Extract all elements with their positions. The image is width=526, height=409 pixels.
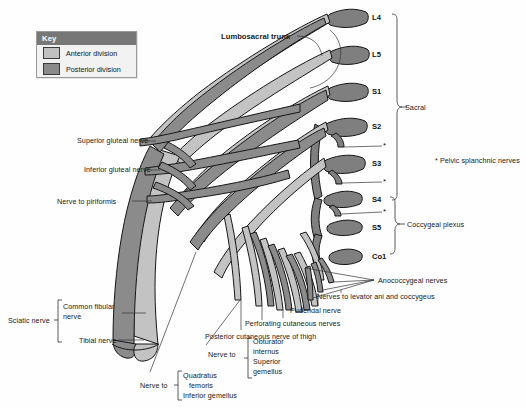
root-label-s1: S1	[372, 87, 381, 96]
root-label-l4: L4	[372, 13, 381, 22]
sciatic-nerve-trunk	[112, 340, 159, 361]
spinal-root-L4	[327, 9, 368, 27]
bracket-label-sciatic-nerve: Sciatic nerve	[8, 316, 50, 325]
bracket-coccygeal-plexus	[390, 197, 405, 254]
spinal-root-S3	[323, 155, 365, 184]
root-label-l5: L5	[372, 50, 381, 59]
asterisk-marker-s3: *	[383, 178, 386, 186]
sympathetic-chain-lower	[311, 198, 322, 240]
spinal-root-S4	[324, 191, 362, 216]
label-common-fibular-nerve: Common fibular nerve	[63, 302, 125, 321]
root-label-s2: S2	[372, 122, 381, 131]
label-inferior-gemellus: Inferior gemellus	[183, 391, 237, 400]
label-femoris: femoris	[189, 381, 213, 390]
bracket-label-sacral: Sacral	[405, 103, 426, 112]
root-label-s4: S4	[372, 195, 381, 204]
posterior-division-label: Posterior division	[66, 65, 121, 74]
posterior-division-swatch	[43, 63, 60, 75]
spinal-root-S1	[327, 83, 368, 101]
label-nerve-to-prefix-quadratus: Nerve to	[140, 381, 168, 390]
label-perforating-cutaneous-nerves: Perforating cutaneous nerves	[245, 319, 340, 328]
label-tibial-nerve: Tibial nerve	[79, 336, 117, 345]
spinal-root-Co1	[329, 249, 362, 264]
label-pudendal-nerve: Pudendal nerve	[290, 306, 341, 315]
label-superior-gemellus: gemellus	[253, 367, 282, 376]
asterisk-marker-s2: *	[383, 142, 386, 150]
bracket-sciatic-nerve	[54, 300, 62, 342]
asterisk-marker-s4: *	[383, 208, 386, 216]
figure-canvas: .ant{fill:#c3c3c3;stroke:#161616;stroke-…	[0, 0, 526, 409]
root-label-s3: S3	[372, 159, 381, 168]
anterior-division-label: Anterior division	[66, 49, 117, 58]
label-superior-gluteal-nerve: Superior gluteal nerve	[77, 136, 148, 145]
key-item-posterior: Posterior division	[37, 61, 136, 77]
label-internus: internus	[253, 347, 279, 356]
label-nerve-to-prefix-obturator: Nerve to	[208, 350, 236, 359]
footnote-pelvic-splanchnic-nerves: * Pelvic splanchnic nerves	[435, 156, 520, 165]
label-obturator: Obturator	[253, 337, 284, 346]
key-item-anterior: Anterior division	[37, 45, 136, 61]
label-superior: Superior	[253, 357, 281, 366]
key-title: Key	[37, 32, 136, 45]
label-nerve-to-piriformis: Nerve to piriformis	[57, 197, 116, 206]
spinal-root-S5	[327, 220, 362, 235]
spinal-root-L5	[329, 46, 369, 64]
label-quadratus: Quadratus	[183, 371, 217, 380]
bracket-obturator-group	[244, 338, 252, 378]
spinal-root-S2	[325, 118, 367, 147]
anterior-division-swatch	[43, 47, 60, 59]
root-label-co1: Co1	[372, 252, 386, 261]
label-nerves-to-levator-ani-and-coccygeus: Nerves to levator ani and coccygeus	[317, 292, 435, 301]
key-legend: Key Anterior division Posterior division	[36, 31, 137, 78]
label-inferior-gluteal-nerve: Inferior gluteal nerve	[84, 165, 151, 174]
label-lumbosacral-trunk: Lumbosacral trunk	[221, 32, 290, 41]
bracket-label-coccygeal-plexus: Coccygeal plexus	[407, 220, 464, 229]
root-label-s5: S5	[372, 223, 381, 232]
bracket-quadratus-group	[174, 371, 182, 400]
label-anococcygeal-nerves: Anococcygeal nerves	[378, 276, 447, 285]
